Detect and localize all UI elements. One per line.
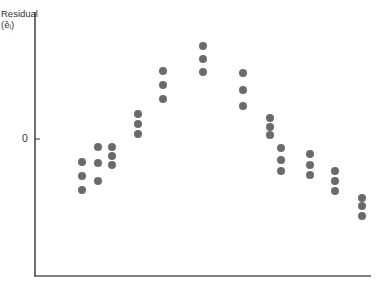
- data-point: [331, 177, 339, 185]
- data-point: [277, 156, 285, 164]
- data-point: [159, 95, 167, 103]
- data-point: [306, 150, 314, 158]
- data-point: [306, 171, 314, 179]
- data-points: [78, 42, 366, 220]
- data-point: [159, 81, 167, 89]
- data-point: [159, 67, 167, 75]
- data-point: [239, 86, 247, 94]
- data-point: [108, 161, 116, 169]
- data-point: [266, 131, 274, 139]
- data-point: [199, 55, 207, 63]
- data-point: [108, 152, 116, 160]
- data-point: [239, 102, 247, 110]
- data-point: [358, 194, 366, 202]
- data-point: [331, 187, 339, 195]
- data-point: [134, 110, 142, 118]
- data-point: [134, 130, 142, 138]
- data-point: [78, 172, 86, 180]
- data-point: [94, 177, 102, 185]
- data-point: [358, 212, 366, 220]
- data-point: [134, 120, 142, 128]
- data-point: [277, 167, 285, 175]
- data-point: [78, 158, 86, 166]
- data-point: [199, 42, 207, 50]
- residual-scatter-plot: [0, 0, 379, 283]
- data-point: [239, 69, 247, 77]
- data-point: [199, 68, 207, 76]
- data-point: [331, 167, 339, 175]
- data-point: [94, 159, 102, 167]
- data-point: [78, 186, 86, 194]
- data-point: [306, 161, 314, 169]
- data-point: [108, 143, 116, 151]
- data-point: [277, 144, 285, 152]
- data-point: [266, 123, 274, 131]
- data-point: [358, 202, 366, 210]
- data-point: [266, 114, 274, 122]
- data-point: [94, 143, 102, 151]
